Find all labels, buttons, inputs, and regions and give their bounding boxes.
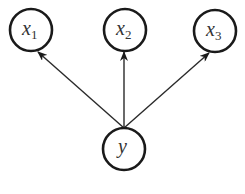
- edge-y-to-x3: [124, 53, 209, 128]
- node-x3: x3: [194, 10, 236, 52]
- node-y: y: [103, 128, 145, 170]
- graphical-model-diagram: x1 x2 x3 y: [0, 0, 245, 194]
- node-x2: x2: [104, 9, 146, 51]
- edge-y-to-x1: [38, 52, 124, 128]
- node-x1: x1: [10, 9, 52, 51]
- node-label: y: [116, 135, 127, 158]
